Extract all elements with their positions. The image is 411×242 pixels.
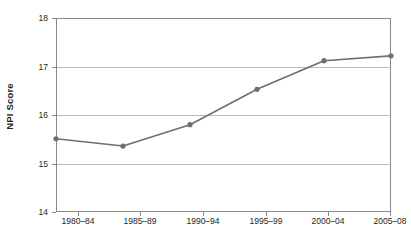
plot-area [56, 18, 391, 212]
x-tick-label-1990-94: 1990–94 [168, 216, 238, 226]
y-tick-mark-14 [52, 212, 56, 213]
x-tick-label-1980-84: 1980–84 [43, 216, 113, 226]
x-tick-label-2005-08: 2005–08 [355, 216, 411, 226]
y-tick-label-17: 17 [18, 62, 48, 72]
gridline-16 [57, 115, 390, 116]
x-tick-label-2000-04: 2000–04 [293, 216, 363, 226]
gridline-17 [57, 67, 390, 68]
y-tick-label-15: 15 [18, 159, 48, 169]
x-tick-label-1995-99: 1995–99 [231, 216, 301, 226]
y-tick-label-18: 18 [18, 13, 48, 23]
y-tick-label-16: 16 [18, 110, 48, 120]
y-axis-title: NPI Score [0, 0, 18, 212]
x-tick-label-1985-89: 1985–89 [105, 216, 175, 226]
gridline-15 [57, 164, 390, 165]
y-axis-title-text: NPI Score [4, 83, 15, 130]
